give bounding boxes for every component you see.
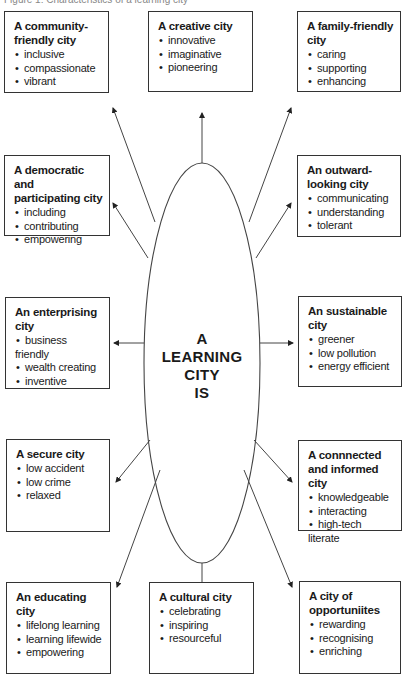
box-democratic: A democratic and participating city incl… — [4, 155, 110, 236]
list-item: caring — [307, 48, 394, 62]
box-title: An sustainable city — [308, 304, 395, 332]
box-title: A city of opportuniites — [309, 589, 394, 617]
box-title: A family-friendly city — [307, 19, 394, 47]
list-item: low accident — [16, 462, 103, 476]
box-connected: A connnected and informed city knowledge… — [298, 440, 402, 531]
list-item: lifelong learning — [16, 619, 104, 633]
box-title: A cultural city — [159, 590, 247, 604]
box-cultural: A cultural city celebratinginspiringreso… — [149, 582, 254, 674]
box-sustainable: An sustainable city greenerlow pollution… — [298, 296, 402, 387]
box-title: A secure city — [16, 447, 103, 461]
list-item: relaxed — [16, 489, 103, 503]
list-item: low pollution — [308, 347, 395, 361]
list-item: imaginative — [158, 48, 246, 62]
box-family: A family-friendly city caringsupportinge… — [297, 11, 401, 92]
list-item: resourceful — [159, 632, 247, 646]
list-item: compassionate — [14, 62, 102, 76]
box-title: An enterprising city — [15, 305, 103, 333]
list-item: inventive — [15, 375, 103, 389]
list-item: inclusive — [14, 48, 102, 62]
box-community: A community-friendly city inclusivecompa… — [4, 11, 109, 93]
box-title: A community-friendly city — [14, 19, 102, 47]
list-item: vibrant — [14, 75, 102, 89]
list-item: tolerant — [307, 219, 394, 233]
box-creative: A creative city innovativeimaginativepio… — [148, 11, 253, 92]
box-title: An outward-looking city — [307, 163, 394, 191]
list-item: high-tech literate — [308, 518, 395, 545]
list-item: greener — [308, 333, 395, 347]
list-item: energy efficient — [308, 360, 395, 374]
box-educating: An educating city lifelong learninglearn… — [6, 582, 111, 674]
list-item: supporting — [307, 62, 394, 76]
list-item: empowering — [14, 233, 103, 247]
list-item: including — [14, 206, 103, 220]
list-item: recognising — [309, 632, 394, 646]
box-title: A connnected and informed city — [308, 448, 395, 490]
list-item: innovative — [158, 34, 246, 48]
list-item: enriching — [309, 645, 394, 659]
list-item: business friendly — [15, 334, 103, 361]
list-item: enhancing — [307, 75, 394, 89]
list-item: contributing — [14, 220, 103, 234]
list-item: wealth creating — [15, 361, 103, 375]
list-item: empowering — [16, 646, 104, 660]
list-item: low crime — [16, 476, 103, 490]
list-item: celebrating — [159, 605, 247, 619]
list-item: rewarding — [309, 618, 394, 632]
list-item: interacting — [308, 505, 395, 519]
box-title: An educating city — [16, 590, 104, 618]
box-opportunities: A city of opportuniites rewardingrecogni… — [299, 581, 401, 674]
box-enterprising: An enterprising city business friendlywe… — [5, 297, 110, 389]
box-title: A democratic and participating city — [14, 163, 103, 205]
list-item: communicating — [307, 192, 394, 206]
box-outward: An outward-looking city communicatingund… — [297, 155, 401, 237]
list-item: understanding — [307, 206, 394, 220]
list-item: inspiring — [159, 619, 247, 633]
list-item: learning lifewide — [16, 633, 104, 647]
list-item: knowledgeable — [308, 491, 395, 505]
box-secure: A secure city low accidentlow crimerelax… — [6, 439, 110, 532]
central-label: A LEARNING CITY IS — [150, 330, 254, 402]
list-item: pioneering — [158, 61, 246, 75]
box-title: A creative city — [158, 19, 246, 33]
